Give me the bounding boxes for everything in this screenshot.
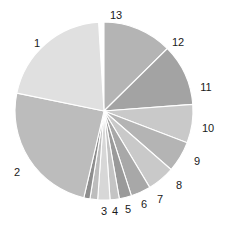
pie-slice-label-4: 4: [112, 206, 118, 217]
pie-slice-label-9: 9: [194, 156, 200, 167]
pie-slice-label-10: 10: [202, 123, 214, 134]
pie-slice-label-5: 5: [125, 204, 131, 215]
pie-slice-label-12: 12: [172, 37, 184, 48]
pie-slice-label-2: 2: [14, 167, 20, 178]
pie-slice-label-13: 13: [110, 10, 122, 21]
pie-slice-label-3: 3: [101, 206, 107, 217]
pie-slice-label-11: 11: [200, 82, 211, 93]
pie-slice-label-1: 1: [34, 38, 40, 49]
pie-slice-label-7: 7: [157, 194, 163, 205]
pie-chart-canvas: [0, 0, 232, 227]
pie-slice-label-8: 8: [176, 180, 182, 191]
pie-chart: 13121110987654321: [0, 0, 232, 227]
pie-slice-label-6: 6: [141, 199, 147, 210]
